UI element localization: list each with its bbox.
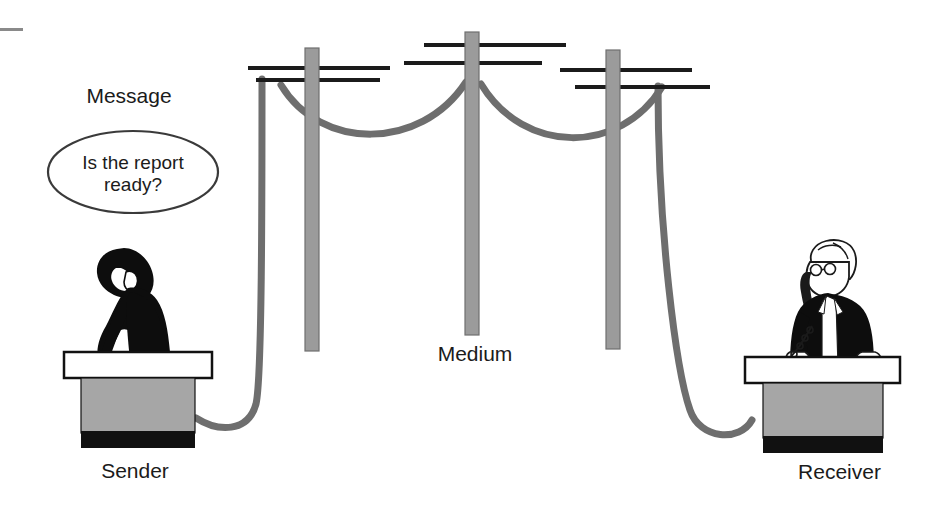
speech-bubble-text: Is the report ready?: [48, 152, 218, 197]
utility-pole-2: [404, 32, 566, 335]
diagram-canvas: Message Is the report ready? Medium Send…: [0, 0, 941, 509]
label-message: Message: [0, 84, 258, 108]
label-medium: Medium: [385, 342, 565, 366]
utility-pole-3: [560, 50, 710, 349]
label-receiver: Receiver: [757, 460, 922, 484]
corner-dash-mark: [0, 28, 23, 31]
sender-desk: [64, 352, 212, 448]
utility-pole-1: [248, 48, 390, 351]
receiver-desk: [745, 357, 900, 453]
sender-figure: [89, 248, 172, 362]
label-sender: Sender: [55, 459, 215, 483]
communication-model-illustration: [0, 0, 941, 509]
